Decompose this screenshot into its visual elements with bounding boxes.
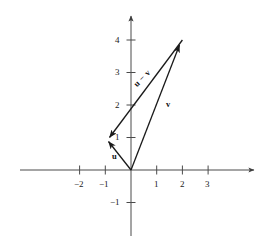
y-tick-label-4: 4 [115,36,120,45]
vector-label-v: v [166,100,170,109]
y-tick-label-2: 2 [115,101,120,110]
x-tick-label-3: 3 [205,180,210,189]
x-tick-label-1: 1 [154,180,159,189]
vector-v [131,45,180,170]
y-tick-label-1: 1 [115,133,120,142]
x-tick-label-2: 2 [180,180,185,189]
x-tick-label--2: −2 [74,180,84,189]
y-tick-label--1: −1 [110,198,120,207]
plot-canvas [0,0,271,244]
y-tick-label-3: 3 [115,68,120,77]
vector-diagram-figure: −2 −1 1 2 3 4 3 2 1 −1 u v u − v [0,0,271,244]
vector-label-u: u [112,152,117,161]
x-tick-label--1: −1 [99,180,109,189]
vector-u-minus-v [110,40,183,138]
